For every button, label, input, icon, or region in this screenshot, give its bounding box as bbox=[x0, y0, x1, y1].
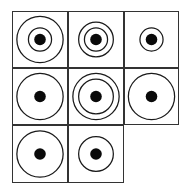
center-dot bbox=[90, 91, 102, 103]
center-dot bbox=[146, 34, 158, 46]
cell-r3-c2 bbox=[68, 125, 124, 183]
target-icon bbox=[69, 69, 123, 124]
target-icon bbox=[69, 126, 123, 182]
cell-r3-c1 bbox=[12, 125, 68, 183]
cell-r1-c3 bbox=[124, 11, 179, 68]
target-icon bbox=[13, 126, 67, 182]
center-dot bbox=[146, 91, 158, 103]
target-icon bbox=[125, 69, 178, 124]
center-dot bbox=[34, 34, 46, 46]
cell-r2-c2 bbox=[68, 68, 124, 125]
cell-r2-c3 bbox=[124, 68, 179, 125]
center-dot bbox=[90, 148, 102, 160]
cell-r2-c1 bbox=[12, 68, 68, 125]
cell-r1-c2 bbox=[68, 11, 124, 68]
target-icon bbox=[125, 12, 178, 67]
center-dot bbox=[34, 148, 46, 160]
center-dot bbox=[90, 34, 102, 46]
cell-r1-c1 bbox=[12, 11, 68, 68]
target-icon bbox=[13, 69, 67, 124]
target-icon bbox=[13, 12, 67, 67]
target-icon bbox=[69, 12, 123, 67]
center-dot bbox=[34, 91, 46, 103]
puzzle-grid bbox=[0, 0, 187, 191]
